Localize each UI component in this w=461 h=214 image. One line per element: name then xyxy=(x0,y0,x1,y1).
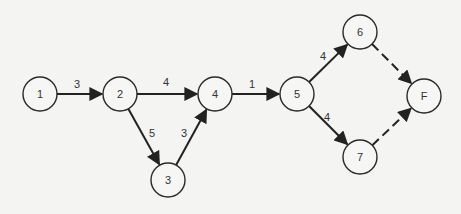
diagram-canvas: 3453144 1234567F xyxy=(0,0,461,214)
node-label: F xyxy=(421,90,428,102)
node-label: 6 xyxy=(357,26,363,38)
edge-weight-label: 5 xyxy=(149,127,155,139)
node-7: 7 xyxy=(343,140,377,174)
nodes: 1234567F xyxy=(23,15,441,197)
edge-7-F xyxy=(372,108,411,145)
edge-5-6 xyxy=(309,45,347,82)
edge-6-F xyxy=(372,44,411,83)
node-1: 1 xyxy=(23,77,57,111)
edge-weight-label: 4 xyxy=(320,50,326,62)
node-2: 2 xyxy=(103,77,137,111)
edge-weight-label: 4 xyxy=(324,111,330,123)
node-label: 7 xyxy=(357,151,363,163)
node-label: 4 xyxy=(212,88,218,100)
node-5: 5 xyxy=(280,77,314,111)
network-diagram: 3453144 1234567F xyxy=(0,0,461,214)
node-6: 6 xyxy=(343,15,377,49)
edge-weight-label: 4 xyxy=(163,76,169,88)
node-label: 3 xyxy=(165,174,171,186)
node-3: 3 xyxy=(151,163,185,197)
node-4: 4 xyxy=(198,77,232,111)
node-label: 5 xyxy=(294,88,300,100)
node-label: 2 xyxy=(117,88,123,100)
edge-weight-label: 3 xyxy=(181,127,187,139)
node-F: F xyxy=(407,79,441,113)
node-label: 1 xyxy=(37,88,43,100)
edge-weight-label: 1 xyxy=(249,78,255,90)
edge-weight-label: 3 xyxy=(74,78,80,90)
